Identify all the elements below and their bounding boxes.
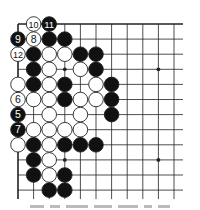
diagram-caption-clipped bbox=[30, 205, 190, 210]
black-stone bbox=[26, 153, 41, 168]
white-stone bbox=[42, 153, 57, 168]
black-stone bbox=[89, 47, 104, 62]
move-number-label: 12 bbox=[13, 50, 23, 60]
black-stone bbox=[104, 107, 119, 122]
black-stone bbox=[26, 77, 41, 92]
white-stone bbox=[26, 92, 41, 107]
black-stone bbox=[58, 138, 73, 153]
move-number-label: 9 bbox=[15, 33, 21, 45]
white-stone-move-6: 6 bbox=[11, 92, 26, 107]
black-stone bbox=[58, 92, 73, 107]
white-stone bbox=[73, 122, 88, 137]
black-stone-move-11: 11 bbox=[42, 17, 57, 32]
white-stone bbox=[73, 62, 88, 77]
black-stone bbox=[26, 138, 41, 153]
black-stone-move-7: 7 bbox=[11, 122, 26, 137]
black-stone bbox=[89, 138, 104, 153]
black-stone bbox=[104, 92, 119, 107]
black-stone bbox=[42, 32, 57, 47]
black-stone bbox=[104, 77, 119, 92]
star-point bbox=[157, 158, 161, 162]
black-stone bbox=[58, 77, 73, 92]
white-stone bbox=[11, 77, 26, 92]
black-stone-move-5: 5 bbox=[11, 107, 26, 122]
black-stone bbox=[73, 138, 88, 153]
white-stone bbox=[42, 107, 57, 122]
black-stone bbox=[26, 168, 41, 183]
white-stone bbox=[73, 92, 88, 107]
white-stone bbox=[42, 77, 57, 92]
white-stone bbox=[11, 138, 26, 153]
black-stone bbox=[26, 62, 41, 77]
star-point bbox=[63, 158, 67, 162]
black-stone bbox=[42, 183, 57, 198]
black-stone bbox=[58, 168, 73, 183]
white-stone-move-12: 12 bbox=[11, 47, 26, 62]
stones-layer: 10119812657 bbox=[11, 17, 119, 198]
white-stone-move-8: 8 bbox=[26, 32, 41, 47]
white-stone bbox=[58, 122, 73, 137]
black-stone bbox=[58, 183, 73, 198]
move-number-label: 8 bbox=[31, 33, 37, 45]
white-stone bbox=[89, 77, 104, 92]
white-stone bbox=[89, 92, 104, 107]
move-number-label: 6 bbox=[15, 93, 21, 105]
white-stone bbox=[42, 92, 57, 107]
move-number-label: 11 bbox=[44, 20, 54, 30]
black-stone bbox=[89, 62, 104, 77]
black-stone-move-9: 9 bbox=[11, 32, 26, 47]
white-stone bbox=[42, 138, 57, 153]
white-stone bbox=[42, 122, 57, 137]
black-stone bbox=[58, 32, 73, 47]
white-stone bbox=[26, 122, 41, 137]
star-point bbox=[63, 67, 67, 71]
star-point bbox=[157, 67, 161, 71]
white-stone bbox=[42, 62, 57, 77]
white-stone bbox=[42, 168, 57, 183]
black-stone bbox=[26, 47, 41, 62]
black-stone bbox=[73, 47, 88, 62]
white-stone bbox=[73, 107, 88, 122]
move-number-label: 7 bbox=[15, 123, 21, 135]
white-stone bbox=[42, 47, 57, 62]
white-stone bbox=[58, 47, 73, 62]
go-board: 10119812657 bbox=[0, 0, 200, 210]
move-number-label: 5 bbox=[15, 108, 21, 120]
white-stone-move-10: 10 bbox=[26, 17, 41, 32]
move-number-label: 10 bbox=[29, 20, 39, 30]
